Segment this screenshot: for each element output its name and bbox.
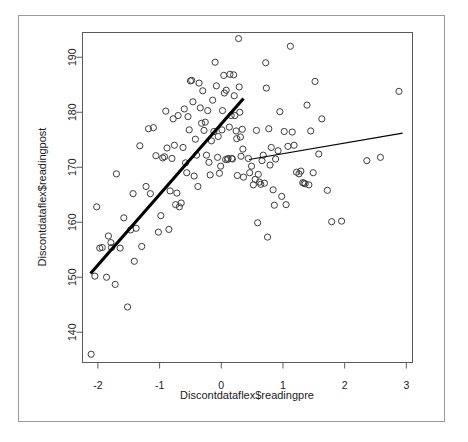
- scatter-point: [147, 191, 153, 197]
- scatter-point: [190, 99, 196, 105]
- y-tick-label: 180: [66, 103, 78, 121]
- scatter-point: [161, 154, 167, 160]
- scatter-points-layer: [88, 35, 402, 357]
- scatter-point: [192, 136, 198, 142]
- scatter-point: [92, 273, 98, 279]
- scatter-point: [105, 233, 111, 239]
- scatter-point: [171, 142, 177, 148]
- x-tick-label: -1: [155, 379, 164, 391]
- scatter-point: [213, 83, 219, 89]
- scatter-point: [221, 72, 227, 78]
- scatter-point: [88, 351, 94, 357]
- scatter-point: [231, 93, 237, 99]
- scatter-point: [180, 144, 186, 150]
- scatter-point: [267, 162, 273, 168]
- scatter-point: [174, 190, 180, 196]
- scatter-point: [181, 106, 187, 112]
- scatter-point: [289, 129, 295, 135]
- y-axis-ticks: 140150160170180190: [66, 48, 83, 341]
- scatter-point: [196, 80, 202, 86]
- y-tick-label: 160: [66, 213, 78, 231]
- scatter-point: [112, 281, 118, 287]
- scatter-point: [248, 163, 254, 169]
- scatter-point: [226, 124, 232, 130]
- scatter-point: [94, 204, 100, 210]
- y-tick-label: 170: [66, 158, 78, 176]
- scatter-point: [233, 128, 239, 134]
- x-tick-label: 2: [342, 379, 348, 391]
- scatter-point: [155, 229, 161, 235]
- scatter-point: [240, 146, 246, 152]
- x-tick-label: -2: [93, 379, 102, 391]
- left-segment-fit: [91, 99, 244, 274]
- scatter-point: [275, 148, 281, 154]
- scatter-point: [396, 88, 402, 94]
- scatter-point: [169, 155, 175, 161]
- scatter-point: [202, 119, 208, 125]
- scatter-point: [264, 234, 270, 240]
- scatter-point: [191, 173, 197, 179]
- scatter-point: [258, 181, 264, 187]
- scatter-point: [113, 171, 119, 177]
- scatter-point: [239, 126, 245, 132]
- scatter-point: [195, 183, 201, 189]
- scatter-point: [277, 109, 283, 115]
- scatter-point: [236, 84, 242, 90]
- scatter-point: [214, 154, 220, 160]
- scatter-point: [291, 142, 297, 148]
- scatter-point: [285, 143, 291, 149]
- scatter-point: [201, 127, 207, 133]
- scatter-point: [219, 108, 225, 114]
- x-axis-ticks: -2-10123: [93, 363, 409, 391]
- scatter-point: [377, 154, 383, 160]
- scatter-point: [198, 120, 204, 126]
- scatter-point: [206, 159, 212, 165]
- scatter-point: [167, 188, 173, 194]
- scatter-point: [324, 187, 330, 193]
- scatter-point: [212, 59, 218, 65]
- scatter-point: [272, 156, 278, 162]
- scatter-point: [329, 219, 335, 225]
- scatter-point: [231, 72, 237, 78]
- scatter-point: [270, 187, 276, 193]
- scatter-point: [185, 114, 191, 120]
- scatter-point: [263, 60, 269, 66]
- scatter-point: [316, 151, 322, 157]
- scatter-point: [319, 116, 325, 122]
- plot-canvas: 140150160170180190 -2-10123 Discontdataf…: [0, 0, 468, 442]
- scatter-point: [287, 43, 293, 49]
- scatter-point: [163, 108, 169, 114]
- scatter-point: [200, 88, 206, 94]
- scatter-point: [178, 200, 184, 206]
- scatter-point: [247, 170, 253, 176]
- scatter-point: [237, 134, 243, 140]
- x-tick-label: 3: [403, 379, 409, 391]
- scatter-point: [133, 225, 139, 231]
- scatter-point: [268, 144, 274, 150]
- y-axis-title: Discontdataflex$readingpost: [36, 128, 48, 267]
- right-segment-fit: [249, 133, 403, 159]
- scatter-point: [215, 133, 221, 139]
- scatter-point: [137, 143, 143, 149]
- scatter-point: [184, 170, 190, 176]
- scatter-point: [130, 191, 136, 197]
- scatter-point: [203, 152, 209, 158]
- scatter-point: [210, 97, 216, 103]
- scatter-point: [207, 172, 213, 178]
- y-tick-label: 140: [66, 323, 78, 341]
- scatter-point: [186, 127, 192, 133]
- scatter-point: [103, 274, 109, 280]
- scatter-point: [253, 127, 259, 133]
- scatter-point: [364, 158, 370, 164]
- scatter-point: [131, 258, 137, 264]
- scatter-point: [158, 213, 164, 219]
- y-tick-label: 190: [66, 48, 78, 66]
- scatter-point: [117, 245, 123, 251]
- scatter-point: [281, 128, 287, 134]
- scatter-point: [271, 202, 277, 208]
- scatter-point: [312, 78, 318, 84]
- scatter-point: [218, 163, 224, 169]
- scatter-point: [216, 170, 222, 176]
- scatter-point: [205, 108, 211, 114]
- scatter-point: [279, 193, 285, 199]
